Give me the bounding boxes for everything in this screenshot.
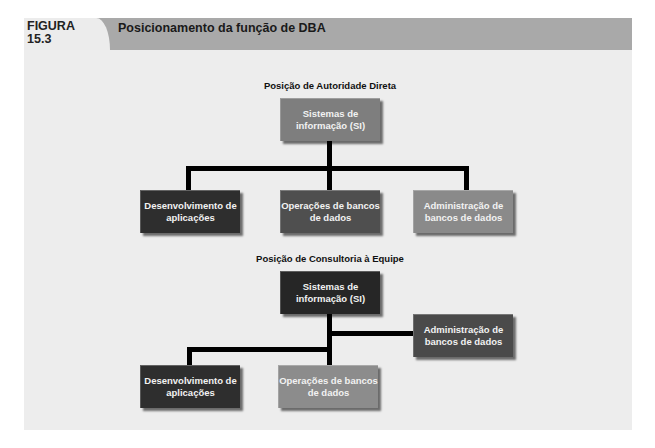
node-administracao-bancos-dados: Administração de bancos de dados: [413, 314, 513, 357]
figure-number-value: 15.3: [27, 33, 75, 46]
node-label: Operações de bancos de dados: [279, 375, 378, 399]
node-sistemas-informacao: Sistemas de informação (SI): [280, 271, 380, 314]
node-desenvolvimento-aplicacoes: Desenvolvimento de aplicações: [140, 190, 240, 233]
node-label: Administração de bancos de dados: [414, 200, 513, 224]
connector-root-trunk: [327, 313, 332, 366]
connector-horizontal-bar: [187, 347, 332, 352]
node-label: Administração de bancos de dados: [414, 324, 513, 348]
connector-staff-branch: [327, 331, 415, 336]
node-operacoes-bancos-dados: Operações de bancos de dados: [278, 365, 378, 408]
connector-child-right: [464, 166, 469, 191]
node-sistemas-informacao: Sistemas de informação (SI): [280, 98, 380, 141]
staff-position-title: Posição de Consultoria à Equipe: [256, 253, 404, 264]
node-administracao-bancos-dados: Administração de bancos de dados: [413, 190, 513, 233]
figure-title: Posicionamento da função de DBA: [118, 21, 326, 35]
node-label: Sistemas de informação (SI): [281, 281, 380, 305]
node-label: Desenvolvimento de aplicações: [141, 200, 240, 224]
connector-horizontal-bar: [186, 166, 469, 171]
figure-label-area: FIGURA 15.3: [24, 18, 110, 50]
node-label: Sistemas de informação (SI): [281, 108, 380, 132]
connector-child-left: [186, 166, 191, 191]
node-label: Operações de bancos de dados: [281, 200, 380, 224]
node-desenvolvimento-aplicacoes: Desenvolvimento de aplicações: [140, 365, 240, 408]
connector-child-left: [187, 347, 192, 366]
node-operacoes-bancos-dados: Operações de bancos de dados: [280, 190, 380, 233]
node-label: Desenvolvimento de aplicações: [141, 375, 240, 399]
figure-header: FIGURA 15.3 Posicionamento da função de …: [24, 18, 632, 50]
direct-authority-title: Posição de Autoridade Direta: [264, 80, 396, 91]
figure-number: FIGURA 15.3: [27, 20, 75, 46]
